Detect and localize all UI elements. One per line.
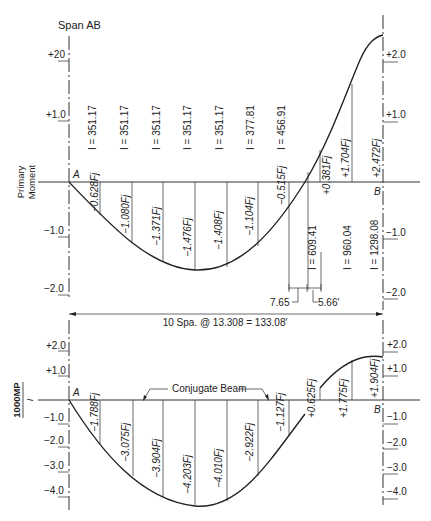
svg-text:−1.0: −1.0 <box>44 225 64 236</box>
svg-text:−2.0: −2.0 <box>386 287 406 298</box>
svg-text:−0.628Fj: −0.628Fj <box>89 172 100 212</box>
svg-text:−4.0: −4.0 <box>387 486 407 497</box>
svg-text:+2.472Fj: +2.472Fj <box>371 138 382 178</box>
svg-text:10 Spa. @ 13.308 = 133.08′: 10 Spa. @ 13.308 = 133.08′ <box>163 317 288 328</box>
primary-moment-curve <box>69 35 383 270</box>
svg-text:Moment: Moment <box>26 164 37 199</box>
svg-text:I = 609.41: I = 609.41 <box>307 225 318 270</box>
bottom-y-label: 1000MP I <box>11 382 35 418</box>
svg-text:−1.0: −1.0 <box>387 411 407 422</box>
top-point-b: B <box>374 186 381 197</box>
svg-text:I = 351.17: I = 351.17 <box>87 105 98 150</box>
svg-text:+2.0: +2.0 <box>46 340 66 351</box>
svg-text:+1.904Fj: +1.904Fj <box>369 358 380 398</box>
svg-text:−1.080Fj: −1.080Fj <box>120 194 131 234</box>
svg-text:−4.010Fj: −4.010Fj <box>213 448 224 488</box>
svg-text:+1.775Fj: +1.775Fj <box>338 378 349 418</box>
bottom-point-b: B <box>374 404 381 415</box>
svg-text:−3.0: −3.0 <box>44 460 64 471</box>
svg-text:−4.203Fj: −4.203Fj <box>182 454 193 494</box>
svg-text:−2.0: −2.0 <box>44 283 64 294</box>
top-y-label: Primary Moment <box>15 164 37 199</box>
svg-text:+20: +20 <box>48 49 65 60</box>
svg-text:−1.0: −1.0 <box>386 227 406 238</box>
svg-text:Primary: Primary <box>15 165 26 198</box>
top-ordinate-labels: −0.628Fj −1.080Fj −1.371Fj −1.476Fj −1.4… <box>89 138 382 257</box>
svg-text:−1.476Fj: −1.476Fj <box>182 217 193 257</box>
title-span: Span AB <box>58 19 101 31</box>
conjugate-beam-annotation: Conjugate Beam <box>143 383 269 401</box>
svg-text:7.65: 7.65 <box>270 297 290 308</box>
svg-text:I: I <box>24 398 35 401</box>
svg-text:−3.075Fj: −3.075Fj <box>120 422 131 462</box>
bottom-right-ticks: +2.0 +1.0 −1.0 −2.0 −3.0 −4.0 <box>383 339 407 499</box>
svg-text:1000MP: 1000MP <box>11 382 22 418</box>
svg-text:−0.515Fj: −0.515Fj <box>276 165 287 205</box>
svg-text:I = 351.17: I = 351.17 <box>214 105 225 150</box>
svg-text:−1.0: −1.0 <box>44 412 64 423</box>
svg-text:+2.0: +2.0 <box>387 339 407 350</box>
svg-text:−3.904Fj: −3.904Fj <box>151 438 162 478</box>
svg-text:−1.371Fj: −1.371Fj <box>151 206 162 246</box>
top-right-ticks: +2.0 +1.0 −1.0 −2.0 <box>383 49 406 299</box>
svg-text:I = 1298.08: I = 1298.08 <box>369 219 380 270</box>
small-dimension: 7.65 5.66′ <box>270 284 339 308</box>
svg-text:Conjugate Beam: Conjugate Beam <box>172 383 247 394</box>
svg-text:−2.0: −2.0 <box>387 437 407 448</box>
svg-text:I = 456.91: I = 456.91 <box>276 105 287 150</box>
svg-text:−4.0: −4.0 <box>44 485 64 496</box>
svg-text:I = 351.17: I = 351.17 <box>151 105 162 150</box>
svg-text:5.66′: 5.66′ <box>318 297 339 308</box>
svg-text:−1.104Fj: −1.104Fj <box>244 196 255 236</box>
svg-text:−3.0: −3.0 <box>387 462 407 473</box>
svg-text:−1.788Fj: −1.788Fj <box>89 392 100 432</box>
svg-text:I = 377.81: I = 377.81 <box>245 105 256 150</box>
svg-text:+0.625Fj: +0.625Fj <box>306 378 317 418</box>
svg-text:+1.704Fj: +1.704Fj <box>340 138 351 178</box>
svg-text:+1.0: +1.0 <box>387 363 407 374</box>
svg-text:−1.408Fj: −1.408Fj <box>213 210 224 250</box>
svg-text:I = 351.17: I = 351.17 <box>182 105 193 150</box>
svg-text:+0.381Fj: +0.381Fj <box>321 155 332 195</box>
svg-text:−2.0: −2.0 <box>44 435 64 446</box>
svg-text:+1.0: +1.0 <box>46 109 66 120</box>
inertia-labels: I = 351.17 I = 351.17 I = 351.17 I = 351… <box>87 105 380 270</box>
svg-text:I = 960.04: I = 960.04 <box>342 225 353 270</box>
bottom-point-a: A <box>72 387 80 398</box>
top-left-ticks: +20 +1.0 −1.0 −2.0 <box>44 49 69 295</box>
svg-text:+2.0: +2.0 <box>386 49 406 60</box>
svg-text:I = 351.17: I = 351.17 <box>119 105 130 150</box>
top-point-a: A <box>72 169 80 180</box>
svg-text:−1.127Fj: −1.127Fj <box>275 392 286 432</box>
svg-text:+1.0: +1.0 <box>386 109 406 120</box>
moment-diagram: Span AB +20 +1.0 −1.0 −2.0 +2.0 +1.0 −1.… <box>0 0 431 521</box>
svg-text:+1.0: +1.0 <box>46 365 66 376</box>
span-dimension: 10 Spa. @ 13.308 = 133.08′ <box>69 312 383 328</box>
svg-text:−2.922Fj: −2.922Fj <box>244 422 255 462</box>
bottom-left-ticks: +2.0 +1.0 −1.0 −2.0 −3.0 −4.0 <box>44 340 69 497</box>
